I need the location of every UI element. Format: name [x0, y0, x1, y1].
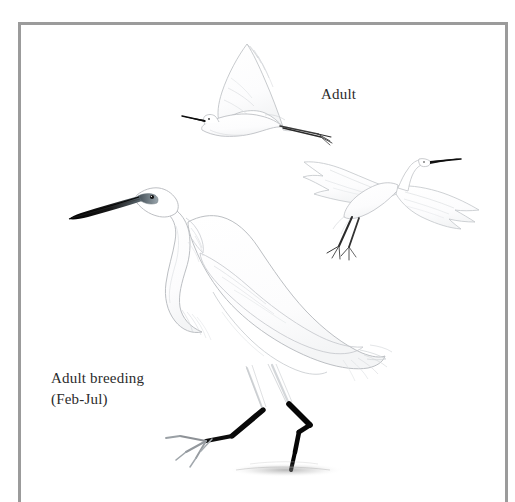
label-adult-breeding-text: Adult breeding: [51, 370, 144, 386]
plate-frame-border: [18, 22, 508, 502]
label-adult: Adult: [321, 84, 356, 105]
label-adult-breeding: Adult breeding (Feb-Jul): [51, 368, 144, 411]
label-adult-breeding-months: (Feb-Jul): [51, 389, 144, 410]
